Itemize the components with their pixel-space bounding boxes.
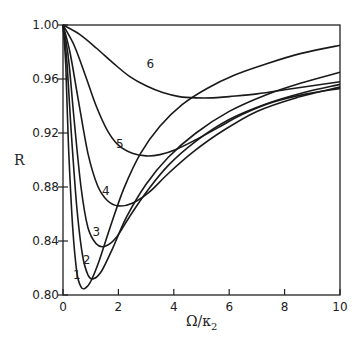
y-tick-label: 0.84 [32,234,59,248]
curve-label-4: 4 [102,184,110,198]
curve-2 [63,25,340,279]
curve-label-6: 6 [146,57,154,71]
curve-label-1: 1 [73,268,81,282]
chart: 0.800.840.880.920.961.00 0246810 123456 … [0,0,363,338]
x-axis-title-subscript: 2 [211,321,217,332]
y-tick-label: 0.88 [32,180,59,194]
x-tick-label: 10 [332,300,347,314]
curve-4 [63,25,340,206]
x-tick-label: 8 [281,300,289,314]
y-tick-label: 0.92 [32,126,59,140]
y-tick-label: 0.80 [32,288,59,302]
curves [63,25,340,289]
x-tick-label: 0 [59,300,67,314]
curve-5 [63,25,340,156]
curve-label-5: 5 [116,137,124,151]
x-tick-label: 4 [170,300,178,314]
x-axis-title-main: Ω/κ [186,313,211,329]
curve-label-3: 3 [92,225,100,239]
y-axis-title: R [14,152,25,168]
curve-label-2: 2 [83,253,91,267]
x-axis-title: Ω/κ2 [186,313,217,332]
x-axis-ticks: 0246810 [59,289,347,314]
curve-6 [63,25,340,98]
plot-frame [63,25,340,295]
y-tick-label: 0.96 [32,72,59,86]
x-tick-label: 2 [115,300,123,314]
y-tick-label: 1.00 [32,18,59,32]
x-tick-label: 6 [225,300,233,314]
curve-1 [63,25,340,289]
